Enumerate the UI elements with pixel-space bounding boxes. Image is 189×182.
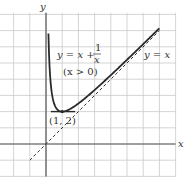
formula-numerator: 1	[95, 42, 101, 53]
x-axis-label: x	[178, 138, 184, 149]
min-point-label: (1, 2)	[49, 115, 76, 126]
formula-denominator: x	[94, 54, 100, 65]
asymptote-label: y = x	[143, 49, 170, 60]
y-axis-label: y	[39, 1, 46, 12]
minimum-point	[61, 110, 64, 113]
domain-note: (x > 0)	[63, 66, 98, 77]
chart: x y y = x + 1 x (x > 0) y = x (1, 2)	[0, 0, 189, 182]
formula-label: y = x +	[56, 49, 95, 60]
